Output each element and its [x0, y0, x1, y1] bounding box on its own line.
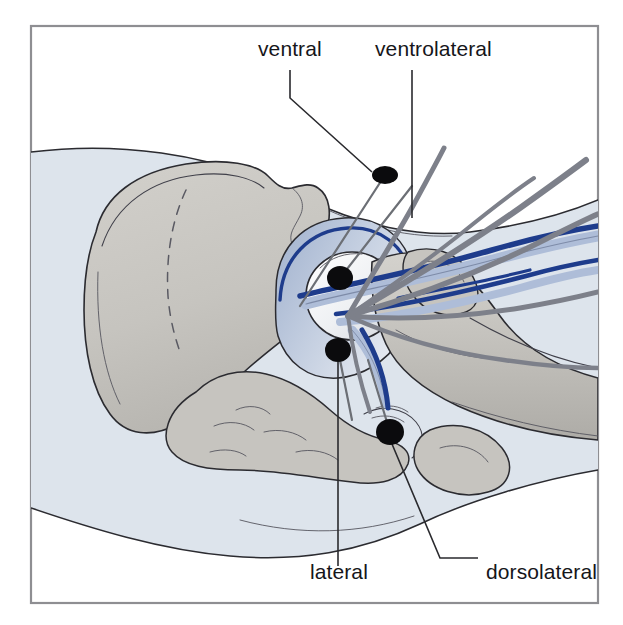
- label-dorsolateral: dorsolateral: [486, 560, 597, 583]
- anatomical-illustration: ventral ventrolateral lateral dorsolater…: [0, 0, 623, 625]
- label-ventral: ventral: [258, 37, 322, 60]
- puncture-dot-lateral[interactable]: [325, 338, 351, 362]
- figure-root: ventral ventrolateral lateral dorsolater…: [0, 0, 623, 625]
- puncture-dot-ventral[interactable]: [372, 166, 398, 184]
- puncture-dot-dorsolateral[interactable]: [376, 419, 404, 445]
- label-lateral: lateral: [310, 560, 368, 583]
- label-ventrolateral: ventrolateral: [375, 37, 492, 60]
- puncture-dot-ventrolateral[interactable]: [327, 266, 353, 290]
